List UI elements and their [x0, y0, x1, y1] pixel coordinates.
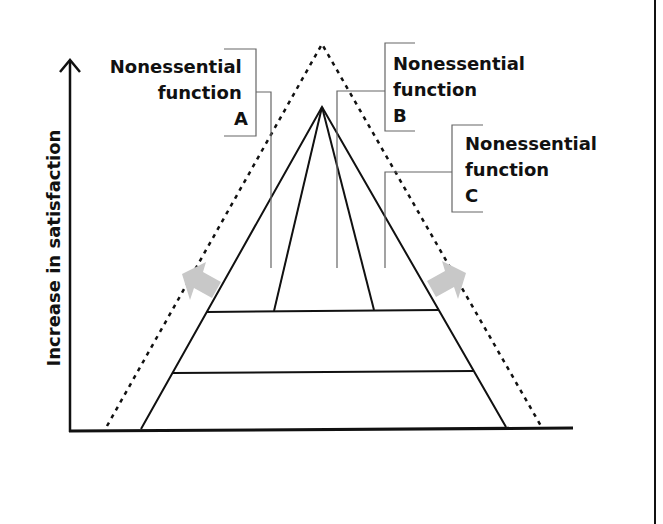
- expand-arrow-left-icon: [182, 262, 221, 300]
- expand-arrow-right-icon: [427, 261, 466, 299]
- pyramid-segment-right: [322, 107, 374, 310]
- pyramid-tier-line-upper: [207, 310, 438, 312]
- diagram-canvas: Increase in satisfaction Nonessential fu…: [0, 0, 663, 524]
- leader-a: [256, 92, 271, 268]
- leader-b: [337, 91, 385, 268]
- callout-b: Nonessential function B: [393, 53, 531, 126]
- callout-a: Nonessential function A: [110, 56, 248, 129]
- callout-c: Nonessential function C: [465, 133, 603, 206]
- pyramid-diagram: Increase in satisfaction Nonessential fu…: [0, 0, 663, 524]
- pyramid-tier-line-lower: [173, 371, 473, 373]
- pyramid-segment-left: [274, 107, 322, 311]
- y-axis-label: Increase in satisfaction: [43, 130, 64, 367]
- x-axis: [69, 428, 573, 431]
- leader-c: [385, 172, 452, 268]
- leader-lines: [224, 43, 483, 268]
